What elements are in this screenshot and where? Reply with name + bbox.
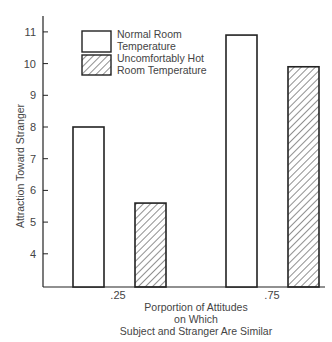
legend-label-hot-line-1: Uncomfortably Hot: [117, 52, 204, 64]
legend-label-hot-line-2: Room Temperature: [117, 64, 207, 76]
x-axis-title-line-2: on Which: [174, 313, 218, 325]
y-tick-label: 7: [30, 153, 36, 165]
bar-normal-p25: [73, 127, 104, 287]
y-tick-label: 8: [30, 121, 36, 133]
bar-hot-p25: [135, 203, 166, 287]
x-tick-label: .75: [264, 289, 279, 301]
x-axis-title-line-3: Subject and Stranger Are Similar: [120, 325, 273, 337]
y-ticks: 4567891011: [24, 26, 48, 260]
legend: Normal Room Temperature Uncomfortably Ho…: [82, 28, 207, 76]
legend-swatch-normal: [82, 31, 111, 52]
y-axis-title: Attraction Toward Stranger: [14, 103, 26, 228]
x-tick-label: .25: [110, 289, 125, 301]
bar-hot-p75: [288, 67, 319, 287]
y-tick-label: 6: [30, 184, 36, 196]
y-tick-label: 10: [24, 58, 36, 70]
x-tick-labels: .25.75: [110, 289, 279, 301]
y-tick-label: 4: [30, 248, 36, 260]
y-tick-label: 9: [30, 89, 36, 101]
y-tick-label: 5: [30, 216, 36, 228]
x-axis-title-line-1: Porportion of Attitudes: [144, 301, 247, 313]
bar-normal-p75: [226, 35, 257, 287]
legend-label-normal-line-2: Temperature: [117, 40, 176, 52]
y-tick-label: 11: [25, 26, 36, 38]
bar-chart: 4567891011 .25.75 Attraction Toward Stra…: [0, 0, 332, 342]
legend-label-normal-line-1: Normal Room: [117, 28, 182, 40]
x-axis-title: Porportion of Attitudes on Which Subject…: [120, 301, 273, 337]
legend-swatch-hot: [82, 55, 111, 75]
